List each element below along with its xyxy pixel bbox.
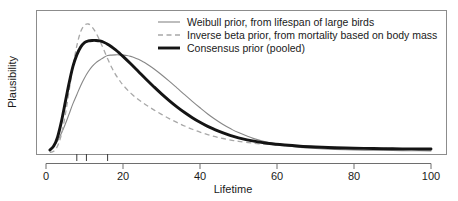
density-plot-svg: 020406080100 Lifetime Plausibility Weibu… (0, 0, 458, 201)
x-axis: 020406080100 Lifetime (43, 164, 440, 196)
legend: Weibull prior, from lifespan of large bi… (158, 16, 437, 54)
x-tick-label: 40 (194, 170, 206, 182)
x-tick-label: 60 (271, 170, 283, 182)
x-tick-label: 20 (117, 170, 129, 182)
legend-label-weibull-prior: Weibull prior, from lifespan of large bi… (187, 16, 374, 28)
x-axis-title: Lifetime (214, 183, 253, 195)
legend-label-inverse-beta-prior: Inverse beta prior, from mortality based… (187, 29, 437, 41)
x-tick-marks (46, 164, 431, 170)
legend-label-consensus-prior: Consensus prior (pooled) (187, 42, 305, 54)
x-tick-label: 100 (422, 170, 440, 182)
series-line-weibull-prior (50, 55, 431, 151)
rug-marks (77, 154, 108, 161)
x-tick-label: 80 (348, 170, 360, 182)
y-axis-title: Plausibility (6, 56, 18, 108)
x-tick-label: 0 (43, 170, 49, 182)
y-axis: Plausibility (6, 56, 18, 108)
chart-figure: 020406080100 Lifetime Plausibility Weibu… (0, 0, 458, 201)
x-tick-labels: 020406080100 (43, 170, 440, 182)
